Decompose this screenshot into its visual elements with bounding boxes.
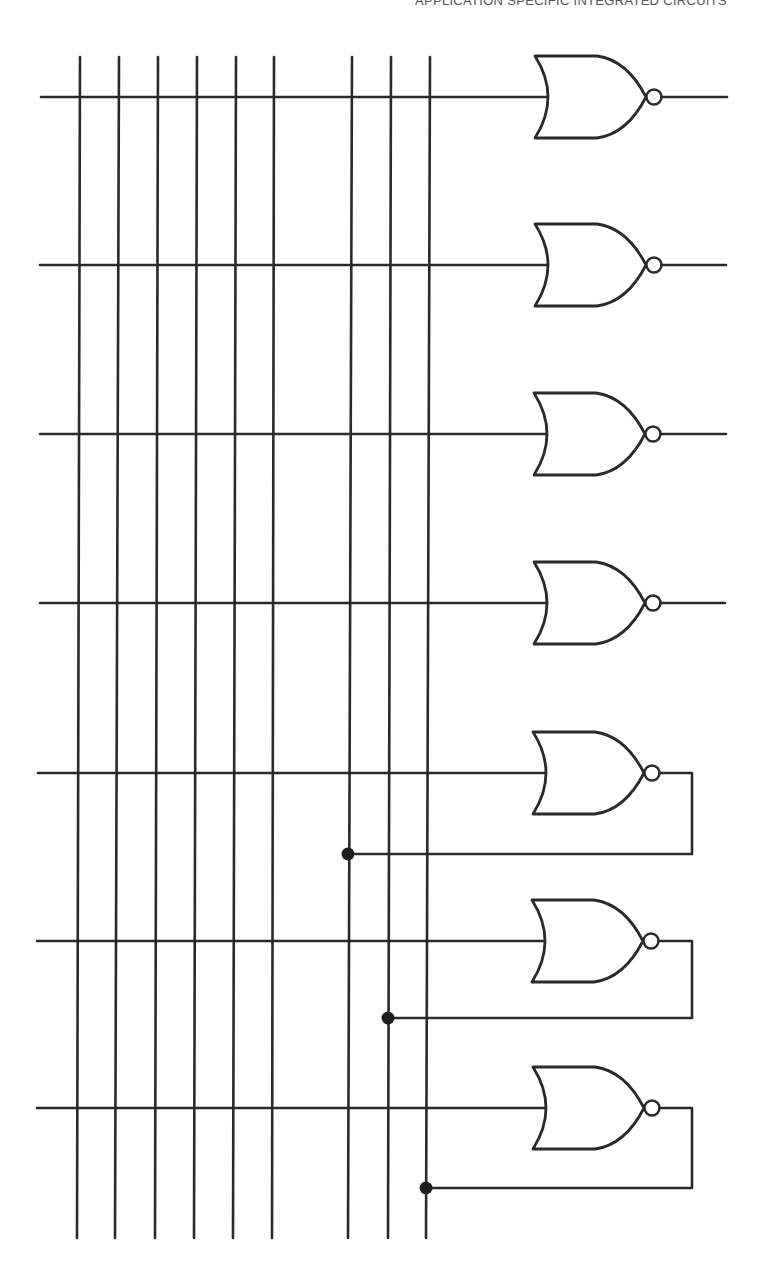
- nor-gate-icon: [535, 224, 646, 306]
- vertical-line-2: [115, 57, 119, 1238]
- nor-gate-row-5: [38, 732, 692, 861]
- gate-rows: [37, 56, 727, 1195]
- inversion-bubble-icon: [647, 90, 662, 105]
- nor-gate-icon: [533, 732, 644, 814]
- nor-gate-icon: [535, 56, 646, 138]
- inversion-bubble-icon: [645, 1101, 660, 1116]
- inversion-bubble-icon: [646, 427, 661, 442]
- vertical-line-8: [388, 57, 391, 1238]
- nor-gate-icon: [532, 900, 643, 982]
- nor-gate-row-3: [40, 393, 726, 475]
- nor-gate-icon: [534, 393, 645, 475]
- junction-dot-icon: [342, 848, 355, 861]
- vertical-line-5: [233, 57, 236, 1238]
- nor-gate-row-7: [37, 1067, 692, 1195]
- inversion-bubble-icon: [644, 934, 659, 949]
- logic-array-diagram: [0, 0, 757, 1284]
- nor-gate-row-1: [41, 56, 727, 138]
- nor-gate-row-6: [37, 900, 692, 1025]
- inversion-bubble-icon: [645, 766, 660, 781]
- vertical-line-3: [155, 57, 158, 1238]
- junction-dot-icon: [420, 1182, 433, 1195]
- vertical-line-7: [348, 57, 352, 1238]
- nor-gate-row-2: [40, 224, 726, 306]
- vertical-line-9: [426, 57, 430, 1238]
- junction-dot-icon: [382, 1012, 395, 1025]
- vertical-line-6: [272, 57, 274, 1238]
- nor-gate-icon: [534, 562, 645, 644]
- inversion-bubble-icon: [647, 258, 662, 273]
- vertical-line-1: [77, 57, 80, 1238]
- nor-gate-row-4: [40, 562, 725, 644]
- feedback-line: [348, 773, 692, 854]
- inversion-bubble-icon: [646, 596, 661, 611]
- nor-gate-icon: [533, 1067, 644, 1149]
- vertical-line-4: [194, 57, 197, 1238]
- vertical-input-lines: [77, 57, 430, 1238]
